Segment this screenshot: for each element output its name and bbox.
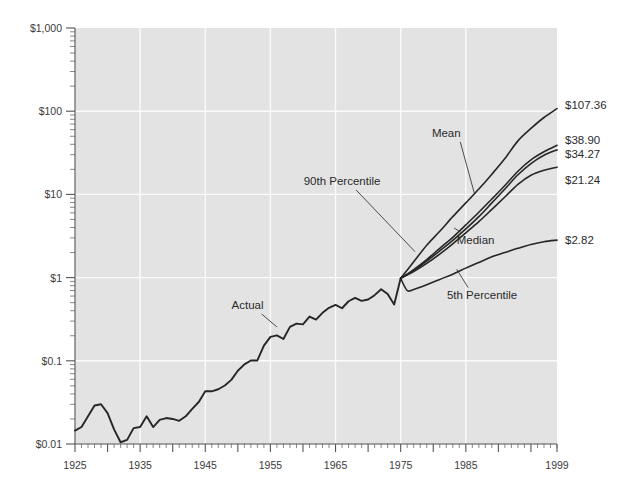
chart-container: $1,000$100$10$1$0.1$0.01 192519351945195… <box>0 0 631 499</box>
y-tick-label: $100 <box>39 105 63 117</box>
x-tick-label: 1985 <box>454 459 478 471</box>
end-label-34.27: $34.27 <box>565 148 600 160</box>
x-tick-label: 1945 <box>194 459 218 471</box>
end-label-2.82: $2.82 <box>565 234 594 246</box>
annotation-median: Median <box>457 234 495 246</box>
x-tick-label: 1975 <box>389 459 413 471</box>
annotation-90th-percentile: 90th Percentile <box>304 175 381 187</box>
annotation-mean: Mean <box>432 127 461 139</box>
y-tick-label: $1 <box>50 272 62 284</box>
end-label-107.36: $107.36 <box>565 99 607 111</box>
x-tick-label: 1999 <box>545 459 569 471</box>
x-tick-label: 1955 <box>259 459 283 471</box>
end-label-38.90: $38.90 <box>565 134 600 146</box>
end-label-21.24: $21.24 <box>565 174 601 186</box>
y-tick-label: $0.01 <box>36 438 62 450</box>
x-tick-label: 1925 <box>63 459 87 471</box>
y-tick-label: $0.1 <box>42 355 63 367</box>
line-chart: $1,000$100$10$1$0.1$0.01 192519351945195… <box>0 0 631 499</box>
annotation-actual: Actual <box>232 299 264 311</box>
y-tick-label: $1,000 <box>30 22 62 34</box>
x-tick-label: 1935 <box>128 459 152 471</box>
annotation-5th-percentile: 5th Percentile <box>447 289 517 301</box>
y-tick-label: $10 <box>44 188 62 200</box>
x-tick-label: 1965 <box>324 459 348 471</box>
